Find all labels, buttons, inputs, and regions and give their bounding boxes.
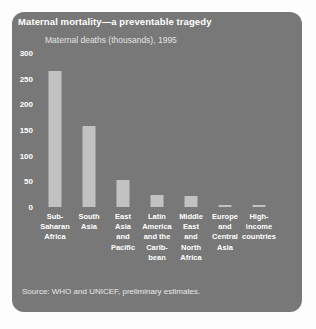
plot-area: 300250200150100500 Sub-SaharanAfricaSout… [38,53,276,207]
bar-slot [106,53,140,207]
bar-slot [208,53,242,207]
x-axis-label-line: Africa [171,253,211,263]
x-axis-label: High-incomecountries [239,212,279,243]
x-axis-label-line: Asia [205,243,245,253]
bar [219,205,232,207]
y-axis-tick: 250 [9,74,33,83]
bar-slot [174,53,208,207]
bar-series [38,53,276,207]
chart-title: Maternal mortality—a preventable tragedy [18,16,212,27]
bar [49,71,62,207]
bar [151,195,164,207]
y-axis-tick: 50 [9,177,33,186]
source-note: Source: WHO and UNICEF, preliminary esti… [22,287,200,296]
x-axis-label-line: countries [239,232,279,242]
x-axis-label-line: High- [239,212,279,222]
bar-slot [140,53,174,207]
bar [253,205,266,207]
x-axis-label-line: income [239,222,279,232]
chart-figure: Maternal mortality—a preventable tragedy… [0,0,316,329]
y-axis-tick: 150 [9,126,33,135]
bar-slot [72,53,106,207]
y-axis-tick: 300 [9,49,33,58]
bar [83,126,96,207]
y-axis-tick: 200 [9,100,33,109]
bar [185,196,198,207]
x-axis-label-line: Africa [35,232,75,242]
y-axis-tick: 100 [9,151,33,160]
chart-subtitle: Maternal deaths (thousands), 1995 [45,35,177,45]
bar-slot [38,53,72,207]
bar [117,180,130,207]
bar-slot [242,53,276,207]
y-axis-tick: 0 [9,203,33,212]
